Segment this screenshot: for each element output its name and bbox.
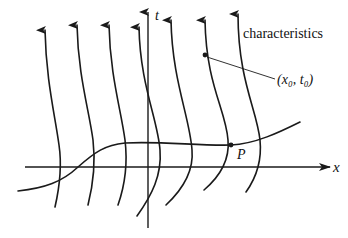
x-axis-label: x [332,159,340,175]
characteristic-6 [204,20,228,190]
point-p-label: P [236,147,246,162]
characteristics-label: characteristics [243,26,323,41]
characteristic-3 [109,25,126,205]
point-x0t0-label: (x₀, t₀) [277,72,314,88]
characteristic-2 [77,25,94,205]
characteristic-5 [166,20,192,205]
point-p-marker [229,143,234,148]
t-axis-label: t [155,8,160,23]
point-x0t0-marker [203,53,208,58]
characteristics-diagram: x t P (x₀, t₀) characteristics [0,0,348,238]
characteristic-curves [45,14,260,216]
